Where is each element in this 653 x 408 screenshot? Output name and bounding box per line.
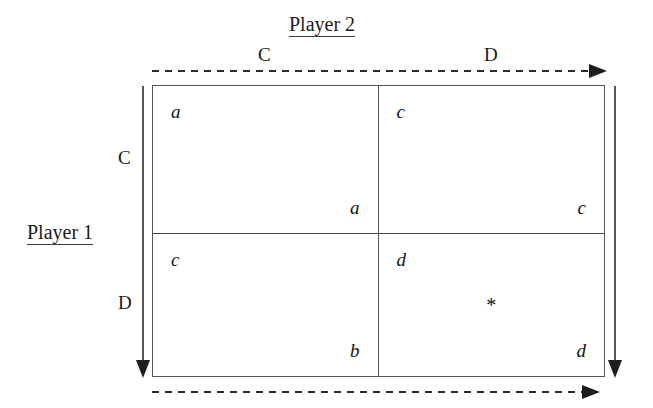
matrix-cell-cd: c c <box>379 86 605 234</box>
matrix-cell-cc: a a <box>153 86 379 234</box>
equilibrium-marker-dd: * <box>486 295 496 315</box>
row-payoff-dc: c <box>171 250 179 269</box>
column-payoff-dc: b <box>350 341 360 360</box>
matrix-cell-dd: d d * <box>379 234 605 376</box>
payoff-matrix-grid: a a c c c b d d * <box>152 85 605 377</box>
row-payoff-cc: a <box>171 102 181 121</box>
column-payoff-cc: a <box>350 198 360 217</box>
row-payoff-cd: c <box>397 102 405 121</box>
column-payoff-cd: c <box>578 198 586 217</box>
column-payoff-dd: d <box>577 341 587 360</box>
payoff-matrix-figure: Player 2 Player 1 C D C D a a c c <box>0 0 653 408</box>
row-payoff-dd: d <box>397 250 407 269</box>
matrix-cell-dc: c b <box>153 234 379 376</box>
